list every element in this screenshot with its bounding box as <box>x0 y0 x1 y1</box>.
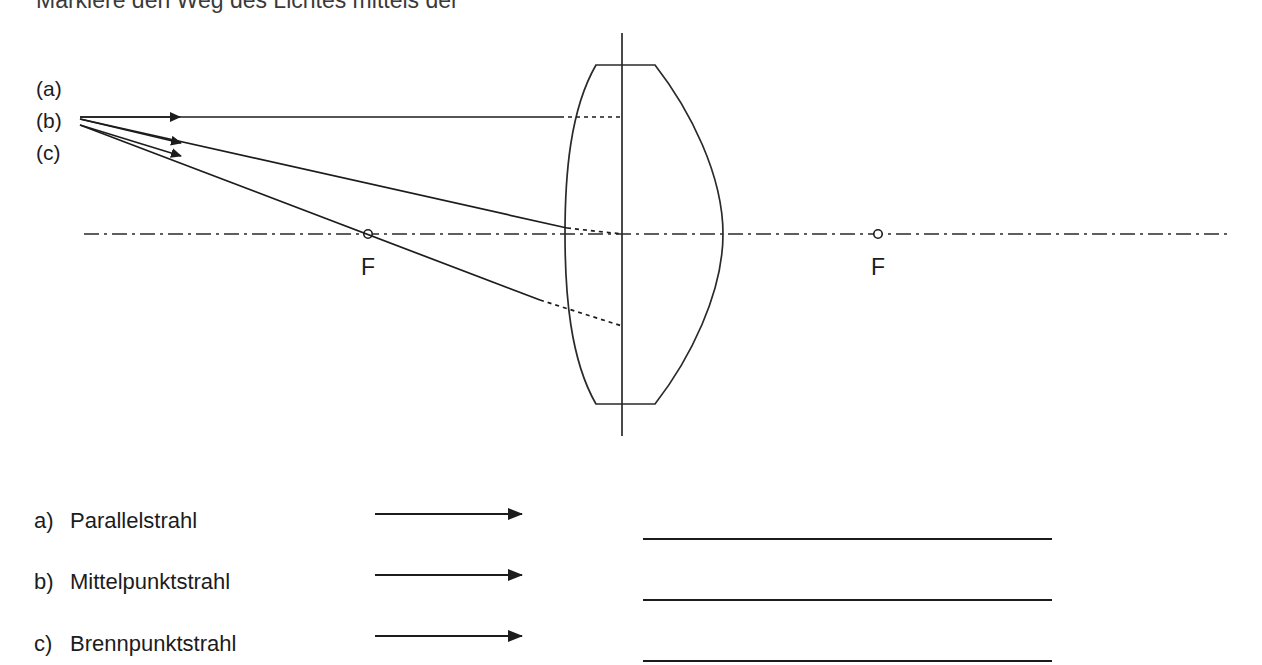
focal-point-right-label: F <box>871 254 885 280</box>
ray-label-c: (c) <box>36 141 61 164</box>
ray-c-incident <box>80 125 540 300</box>
legend-label-a: Parallelstrahl <box>70 508 197 533</box>
legend-label-b: Mittelpunktstrahl <box>70 569 230 594</box>
legend-marker-c: c) <box>34 631 52 656</box>
focal-point-left-label: F <box>361 254 375 280</box>
focal-point-right: F <box>871 230 885 280</box>
ray-b-incident <box>80 119 567 228</box>
ray-label-b: (b) <box>36 109 62 132</box>
legend-marker-a: a) <box>34 508 54 533</box>
ray-c <box>80 125 622 326</box>
legend-item-b: b) Mittelpunktstrahl <box>34 569 1052 600</box>
focal-point-right-marker <box>874 230 882 238</box>
legend-item-c: c) Brennpunktstrahl <box>34 631 1052 661</box>
ray-b-inside-lens <box>567 228 622 234</box>
legend-item-a: a) Parallelstrahl <box>34 508 1052 539</box>
worksheet-page: Markiere den Weg des Lichtes mittels der… <box>0 0 1262 665</box>
worksheet-heading: Markiere den Weg des Lichtes mittels der <box>36 0 459 13</box>
optics-worksheet-figure: Markiere den Weg des Lichtes mittels der… <box>0 0 1262 665</box>
legend-label-c: Brennpunktstrahl <box>70 631 236 656</box>
ray-c-inside-lens <box>540 300 622 326</box>
heading-text: Markiere den Weg des Lichtes mittels der <box>36 0 459 13</box>
ray-label-a: (a) <box>36 77 62 100</box>
ray-b <box>80 119 622 234</box>
legend-marker-b: b) <box>34 569 54 594</box>
